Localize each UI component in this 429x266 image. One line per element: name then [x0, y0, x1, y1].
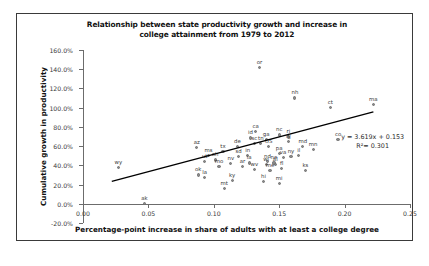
scatter-point — [280, 167, 283, 170]
scatter-point-label: in — [245, 149, 250, 155]
scatter-point-label: il — [297, 148, 300, 154]
scatter-point — [329, 106, 332, 109]
x-tick — [148, 204, 149, 208]
scatter-point — [312, 148, 315, 151]
y-tick: 140.0% — [79, 69, 83, 70]
scatter-point-label: md — [298, 139, 307, 145]
y-tick-label: 100.0% — [49, 104, 73, 111]
scatter-point — [336, 138, 339, 141]
scatter-point — [293, 96, 296, 99]
scatter-point — [203, 176, 206, 179]
scatter-point-label: mn — [309, 142, 318, 148]
x-tick — [410, 204, 411, 208]
trendline-r2: R²= 0.301 — [341, 142, 404, 151]
y-tick-label: 0.0% — [57, 200, 73, 207]
scatter-point-label: sc — [251, 136, 257, 142]
x-tick-label: 0.15 — [272, 210, 286, 217]
scatter-point-label: wy — [115, 160, 123, 166]
scatter-point — [282, 156, 285, 159]
x-tick — [83, 204, 84, 208]
scatter-point-label: ct — [328, 100, 333, 106]
scatter-point-label: la — [202, 170, 207, 176]
scatter-point — [268, 169, 271, 172]
x-tick-label: 0.05 — [142, 210, 156, 217]
y-tick-label: -20.0% — [51, 220, 73, 227]
y-tick-label: 60.0% — [53, 143, 73, 150]
scatter-point — [217, 165, 220, 168]
y-tick: 120.0% — [79, 88, 83, 89]
scatter-point — [267, 145, 270, 148]
scatter-point — [262, 180, 265, 183]
scatter-point — [274, 163, 277, 166]
scatter-point-label: nh — [291, 91, 298, 97]
scatter-point — [229, 162, 232, 165]
scatter-point — [195, 146, 198, 149]
scatter-point-label: mi — [276, 176, 283, 182]
y-tick: 160.0% — [79, 50, 83, 51]
x-tick-label: 0.00 — [76, 210, 90, 217]
scatter-point-label: ar — [240, 159, 246, 165]
scatter-point — [207, 154, 210, 157]
scatter-point-label: US — [265, 139, 272, 145]
scatter-point — [221, 150, 224, 153]
scatter-point — [254, 130, 257, 133]
scatter-point-label: nv — [227, 157, 234, 163]
scatter-point-label: wv — [251, 162, 259, 168]
scatter-point-label: de — [234, 139, 241, 145]
chart-title-line-1: Relationship between state productivity … — [57, 20, 377, 30]
scatter-point-label: ks — [302, 163, 308, 169]
scatter-point — [259, 142, 262, 145]
chart-title: Relationship between state productivity … — [57, 20, 377, 40]
scatter-point-label: az — [194, 140, 200, 146]
scatter-point — [372, 103, 375, 106]
trendline-equation: y = 3.619x + 0.153 — [341, 133, 404, 142]
x-axis-line — [83, 204, 410, 205]
y-axis-line — [83, 50, 84, 223]
scatter-point-label: ca — [253, 124, 259, 130]
trendline-equation-box: y = 3.619x + 0.153 R²= 0.301 — [341, 133, 404, 151]
scatter-point-label: mo — [215, 160, 224, 166]
scatter-point — [301, 145, 304, 148]
plot-area: -20.0%0.0%20.0%40.0%60.0%80.0%100.0%120.… — [83, 50, 410, 223]
y-tick: 20.0% — [79, 185, 83, 186]
scatter-point — [223, 187, 226, 190]
scatter-point — [241, 165, 244, 168]
x-tick — [279, 204, 280, 208]
y-tick: 40.0% — [79, 165, 83, 166]
scatter-point — [231, 179, 234, 182]
y-tick: 100.0% — [79, 108, 83, 109]
plot-inner: -20.0%0.0%20.0%40.0%60.0%80.0%100.0%120.… — [83, 50, 410, 223]
x-tick — [214, 204, 215, 208]
scatter-point-label: ky — [229, 173, 235, 179]
scatter-point — [278, 182, 281, 185]
scatter-point — [197, 173, 200, 176]
y-axis-title: Cumulative growth in productivity — [38, 50, 48, 223]
y-tick-label: 160.0% — [49, 47, 73, 54]
scatter-point-label: nj — [286, 135, 291, 141]
y-tick: -20.0% — [79, 223, 83, 224]
scatter-point-label: or — [257, 60, 263, 66]
scatter-point-label: ma — [369, 98, 378, 104]
chart-container: Relationship between state productivity … — [16, 13, 413, 241]
scatter-point — [278, 133, 281, 136]
y-tick-label: 120.0% — [49, 85, 73, 92]
scatter-point — [289, 155, 292, 158]
scatter-point-label: sd — [236, 149, 242, 155]
x-tick — [345, 204, 346, 208]
scatter-point-label: hi — [261, 174, 266, 180]
scatter-point — [253, 168, 256, 171]
scatter-point — [287, 140, 290, 143]
x-tick-label: 0.20 — [338, 210, 352, 217]
scatter-point — [304, 169, 307, 172]
scatter-point — [258, 66, 261, 69]
y-tick-label: 20.0% — [53, 181, 73, 188]
y-tick: 60.0% — [79, 146, 83, 147]
scatter-point-label: ok — [195, 168, 201, 174]
x-tick-label: 0.10 — [207, 210, 221, 217]
scatter-point — [297, 154, 300, 157]
scatter-point-label: va — [280, 150, 287, 156]
y-tick: 80.0% — [79, 127, 83, 128]
x-tick-label: 0.25 — [403, 210, 417, 217]
y-tick-label: 140.0% — [49, 66, 73, 73]
scatter-point-label: fl — [280, 162, 283, 168]
